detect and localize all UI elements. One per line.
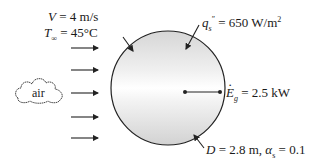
diameter-leader [194,135,204,148]
temperature-label: T∞ = 45°C [44,26,98,39]
velocity-label: V = 4 m/s [48,10,98,23]
generation-label: E·g = 2.5 kW [226,86,290,99]
sphere-properties-label: D = 2.8 m, αs = 0.1 [206,143,305,156]
dot-accent: · [228,78,232,91]
airflow-arrows [71,48,98,138]
sphere [111,31,225,145]
air-label: air [32,87,45,99]
heat-flux-label: qs″ = 650 W/m2 [202,16,281,29]
